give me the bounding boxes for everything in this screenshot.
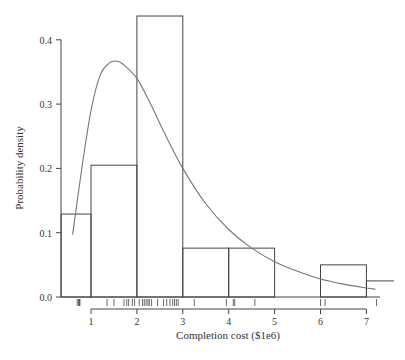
y-tick-label: 0.2 [40, 163, 53, 174]
x-tick-label: 7 [364, 316, 369, 327]
histogram-bar [91, 165, 137, 297]
x-axis-label: Completion cost ($1e6) [176, 329, 280, 342]
histogram-bar [229, 248, 275, 297]
y-axis-label: Probability density [13, 126, 25, 210]
rug-marks [77, 299, 376, 306]
x-tick-label: 6 [318, 316, 323, 327]
y-tick-label: 0.3 [40, 99, 53, 110]
histogram-chart: 0.00.10.20.30.4 1234567 Probability dens… [0, 0, 405, 360]
y-tick-label: 0.1 [40, 228, 53, 239]
x-axis: 1234567 [89, 309, 369, 327]
x-tick-label: 1 [89, 316, 94, 327]
x-tick-label: 2 [134, 316, 139, 327]
x-tick-label: 5 [272, 316, 277, 327]
histogram-bar [183, 248, 229, 297]
y-tick-label: 0.4 [40, 35, 53, 46]
density-curve [73, 61, 376, 289]
y-tick-label: 0.0 [40, 292, 53, 303]
x-tick-label: 4 [226, 316, 231, 327]
histogram-bars [61, 16, 394, 297]
histogram-bar [61, 214, 91, 297]
x-tick-label: 3 [180, 316, 185, 327]
